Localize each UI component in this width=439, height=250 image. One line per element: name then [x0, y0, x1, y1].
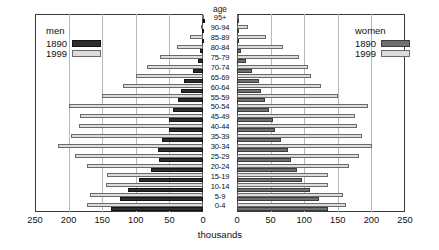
gridline-150 — [102, 14, 103, 212]
legend-swatch-women-1890 — [381, 40, 410, 47]
age-label-5-9: 5-9 — [203, 193, 237, 201]
age-label-85-89: 85-89 — [203, 34, 237, 42]
bar-men-1999-80-84 — [177, 45, 203, 49]
bar-men-1890-20-24 — [151, 168, 203, 172]
bar-men-1890-35-39 — [162, 138, 203, 142]
legend-label-women-1890: 1890 — [355, 38, 376, 49]
bar-men-1890-55-59 — [178, 98, 203, 102]
age-label-35-39: 35-39 — [203, 133, 237, 141]
legend-row-women-1999: 1999 — [355, 49, 410, 58]
bar-men-1890-0-4 — [111, 207, 203, 211]
bar-men-1890-60-64 — [181, 89, 203, 93]
age-label-60-64: 60-64 — [203, 84, 237, 92]
age-label-95+: 95+ — [203, 14, 237, 22]
age-label-90-94: 90-94 — [203, 24, 237, 32]
gridline-50 — [169, 14, 170, 212]
legend-label-men-1999: 1999 — [46, 48, 67, 59]
legend-swatch-women-1999 — [381, 50, 410, 57]
age-label-50-54: 50-54 — [203, 103, 237, 111]
bar-women-1890-15-19 — [237, 178, 302, 182]
left-x-tick-250: 250 — [19, 215, 51, 225]
bar-women-1999-85-89 — [237, 35, 266, 39]
age-label-75-79: 75-79 — [203, 54, 237, 62]
bar-men-1890-40-44 — [169, 128, 203, 132]
bar-men-1890-25-29 — [159, 158, 203, 162]
right-x-tick-150: 150 — [322, 215, 354, 225]
left-x-tick-150: 150 — [86, 215, 118, 225]
bar-women-1890-85-89 — [237, 39, 239, 43]
axis-title-thousands: thousands — [170, 229, 270, 240]
age-label-15-19: 15-19 — [203, 173, 237, 181]
bar-women-1890-30-34 — [237, 148, 288, 152]
bar-women-1890-95+ — [237, 19, 239, 23]
bar-men-1890-50-54 — [173, 108, 203, 112]
legend-row-men-1999: 1999 — [46, 49, 101, 58]
gridline-50 — [271, 14, 272, 212]
age-label-20-24: 20-24 — [203, 163, 237, 171]
bar-women-1890-65-69 — [237, 79, 259, 83]
bar-women-1890-70-74 — [237, 69, 252, 73]
right-x-tick-200: 200 — [355, 215, 387, 225]
gridline-150 — [338, 14, 339, 212]
bar-women-1890-10-14 — [237, 188, 310, 192]
bar-men-1890-15-19 — [139, 178, 203, 182]
bar-women-1890-0-4 — [237, 207, 328, 211]
bar-men-1890-45-49 — [169, 118, 203, 122]
bar-women-1890-60-64 — [237, 89, 261, 93]
bar-women-1890-55-59 — [237, 98, 265, 102]
bar-women-1890-40-44 — [237, 128, 275, 132]
population-pyramid-chart: age95+90-9485-8980-8475-7970-7465-6960-6… — [0, 0, 439, 250]
legend-title-women: women — [355, 25, 410, 36]
age-label-10-14: 10-14 — [203, 183, 237, 191]
age-label-80-84: 80-84 — [203, 44, 237, 52]
legend-label-men-1890: 1890 — [46, 38, 67, 49]
legend-label-women-1999: 1999 — [355, 48, 376, 59]
age-label-70-74: 70-74 — [203, 64, 237, 72]
age-label-25-29: 25-29 — [203, 153, 237, 161]
right-x-tick-100: 100 — [288, 215, 320, 225]
age-label-55-59: 55-59 — [203, 94, 237, 102]
bar-women-1890-35-39 — [237, 138, 281, 142]
bar-men-1999-75-79 — [160, 55, 203, 59]
legend-swatch-men-1890 — [72, 40, 101, 47]
age-label-30-34: 30-34 — [203, 143, 237, 151]
left-x-tick-100: 100 — [120, 215, 152, 225]
bar-men-1890-10-14 — [128, 188, 203, 192]
left-x-tick-0: 0 — [187, 215, 219, 225]
legend-women: women18901999 — [355, 25, 410, 58]
bar-women-1890-80-84 — [237, 49, 241, 53]
bar-women-1890-25-29 — [237, 158, 291, 162]
right-x-tick-50: 50 — [255, 215, 287, 225]
bar-men-1890-5-9 — [120, 197, 203, 201]
legend-row-men-1890: 1890 — [46, 39, 101, 48]
bar-men-1890-65-69 — [184, 79, 203, 83]
gridline-100 — [136, 14, 137, 212]
legend-men: men18901999 — [46, 25, 101, 58]
age-label-65-69: 65-69 — [203, 74, 237, 82]
left-x-tick-200: 200 — [53, 215, 85, 225]
gridline-100 — [304, 14, 305, 212]
bar-women-1890-20-24 — [237, 168, 297, 172]
left-x-tick-50: 50 — [153, 215, 185, 225]
legend-swatch-men-1999 — [72, 50, 101, 57]
bar-men-1890-70-74 — [193, 69, 203, 73]
bar-men-1890-30-34 — [158, 148, 203, 152]
age-label-0-4: 0-4 — [203, 202, 237, 210]
right-x-tick-0: 0 — [221, 215, 253, 225]
bar-women-1890-45-49 — [237, 118, 273, 122]
bar-women-1890-90-94 — [237, 29, 239, 33]
age-label-45-49: 45-49 — [203, 113, 237, 121]
bar-women-1890-50-54 — [237, 108, 269, 112]
bar-women-1999-75-79 — [237, 55, 299, 59]
age-label-column: 95+90-9485-8980-8475-7970-7465-6960-6455… — [203, 14, 237, 212]
age-label-40-44: 40-44 — [203, 123, 237, 131]
right-x-tick-250: 250 — [389, 215, 421, 225]
bar-women-1890-5-9 — [237, 197, 319, 201]
legend-title-men: men — [46, 25, 101, 36]
bar-women-1890-75-79 — [237, 59, 246, 63]
bar-women-1999-80-84 — [237, 45, 283, 49]
legend-row-women-1890: 1890 — [355, 39, 410, 48]
